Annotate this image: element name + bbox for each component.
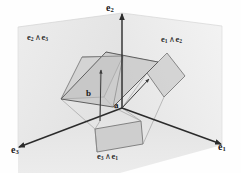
vector-label-b: b <box>86 89 91 98</box>
plane-label-e2-wedge-e3: e2∧e3 <box>27 33 48 43</box>
vector-label-a: a <box>114 101 119 110</box>
diagram-canvas <box>0 0 241 173</box>
axis-label-e1: e1 <box>218 142 226 153</box>
axis-label-e3: e3 <box>11 145 19 156</box>
bivector-projection-diagram: e2 e3 e1 e2∧e3 e1∧e2 e3∧e1 b a <box>0 0 241 173</box>
plane-label-e1-wedge-e2: e1∧e2 <box>161 35 182 45</box>
axis-label-e2: e2 <box>106 3 114 14</box>
plane-label-e3-wedge-e1: e3∧e1 <box>97 152 118 162</box>
